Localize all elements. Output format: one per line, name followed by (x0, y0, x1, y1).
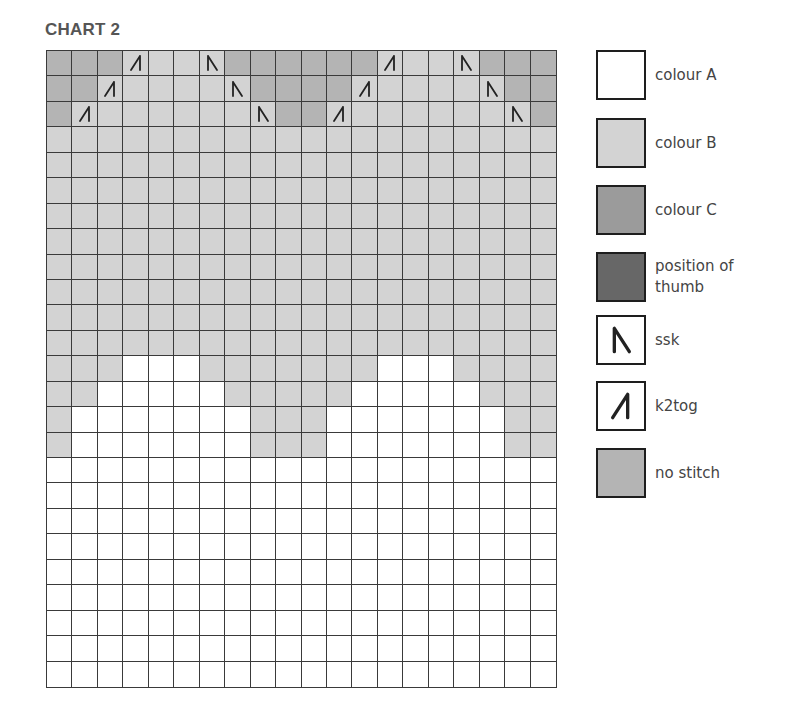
chart-cell-k2tog (98, 76, 123, 101)
chart-cell (200, 102, 225, 127)
chart-cell (149, 407, 174, 432)
chart-cell (531, 560, 556, 585)
chart-cell (403, 153, 428, 178)
chart-cell (276, 458, 301, 483)
chart-cell (403, 356, 428, 381)
chart-cell (149, 331, 174, 356)
chart-cell (429, 229, 454, 254)
chart-cell (505, 153, 530, 178)
chart-cell (378, 331, 403, 356)
chart-cell (149, 356, 174, 381)
chart-cell (480, 305, 505, 330)
chart-cell (149, 433, 174, 458)
chart-cell (378, 127, 403, 152)
chart-cell (174, 585, 199, 610)
chart-cell (72, 255, 97, 280)
chart-cell (123, 483, 148, 508)
chart-cell (429, 509, 454, 534)
chart-cell (403, 305, 428, 330)
chart-cell (72, 407, 97, 432)
chart-cell (98, 102, 123, 127)
chart-cell (327, 509, 352, 534)
k2tog-icon (382, 54, 398, 72)
chart-cell (403, 636, 428, 661)
chart-cell (47, 153, 72, 178)
chart-cell (123, 255, 148, 280)
chart-cell (454, 433, 479, 458)
chart-cell (251, 204, 276, 229)
chart-cell (327, 560, 352, 585)
chart-cell (98, 305, 123, 330)
chart-cell (302, 102, 327, 127)
chart-cell (352, 407, 377, 432)
chart-cell (200, 127, 225, 152)
chart-cell (72, 382, 97, 407)
chart-cell (72, 458, 97, 483)
chart-cell (302, 483, 327, 508)
chart-cell (98, 331, 123, 356)
legend-swatch (596, 50, 646, 100)
chart-cell (200, 534, 225, 559)
chart-cell (174, 662, 199, 687)
chart-cell (200, 204, 225, 229)
chart-cell (378, 611, 403, 636)
chart-cell (149, 636, 174, 661)
chart-cell (149, 560, 174, 585)
chart-cell (429, 382, 454, 407)
k2tog-icon (102, 80, 118, 98)
chart-cell (200, 560, 225, 585)
chart-cell (454, 636, 479, 661)
chart-cell (123, 204, 148, 229)
chart-cell (302, 458, 327, 483)
chart-cell (200, 509, 225, 534)
legend-label: position of thumb (655, 256, 750, 298)
chart-cell (429, 662, 454, 687)
chart-cell (531, 102, 556, 127)
chart-cell (98, 560, 123, 585)
chart-cell (378, 204, 403, 229)
chart-cell (47, 534, 72, 559)
chart-cell (276, 382, 301, 407)
chart-cell (123, 433, 148, 458)
chart-cell (47, 483, 72, 508)
chart-cell (302, 204, 327, 229)
chart-cell (403, 407, 428, 432)
chart-cell-ssk (454, 51, 479, 76)
chart-cell (47, 331, 72, 356)
chart-cell (123, 585, 148, 610)
chart-cell (378, 483, 403, 508)
chart-cell (251, 662, 276, 687)
chart-cell (505, 636, 530, 661)
chart-cell (72, 204, 97, 229)
chart-cell (403, 483, 428, 508)
chart-cell (505, 407, 530, 432)
chart-cell (47, 255, 72, 280)
chart-cell (225, 382, 250, 407)
chart-cell (429, 178, 454, 203)
knitting-chart-grid (46, 50, 557, 688)
chart-cell-k2tog (72, 102, 97, 127)
chart-cell (429, 331, 454, 356)
chart-cell-ssk (200, 51, 225, 76)
chart-cell (378, 229, 403, 254)
chart-cell (454, 127, 479, 152)
chart-cell (327, 458, 352, 483)
chart-cell (225, 534, 250, 559)
chart-cell (454, 382, 479, 407)
chart-cell (123, 636, 148, 661)
chart-cell (72, 280, 97, 305)
chart-cell (480, 509, 505, 534)
chart-cell (531, 229, 556, 254)
chart-cell (327, 611, 352, 636)
chart-cell (174, 76, 199, 101)
chart-cell (72, 305, 97, 330)
chart-cell (378, 560, 403, 585)
chart-cell (378, 509, 403, 534)
chart-cell (302, 585, 327, 610)
chart-cell (327, 382, 352, 407)
chart-cell (352, 662, 377, 687)
chart-cell (200, 229, 225, 254)
chart-cell (302, 127, 327, 152)
chart-cell (480, 483, 505, 508)
chart-title: CHART 2 (45, 20, 120, 40)
